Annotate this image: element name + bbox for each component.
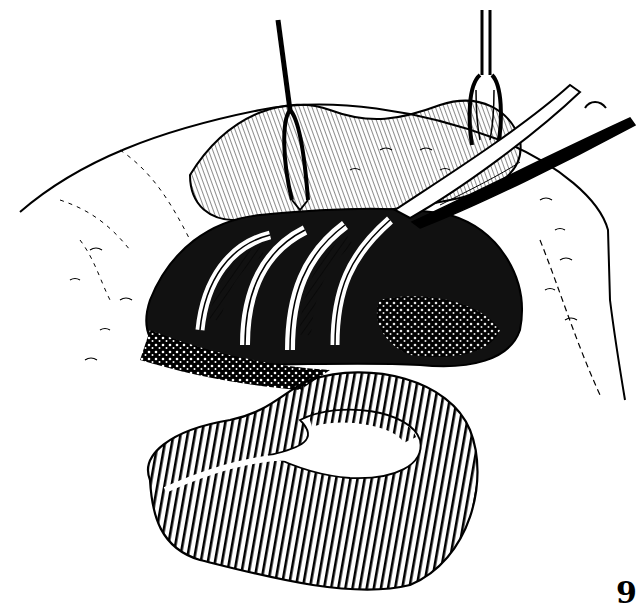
coiled-tissue-loop: [148, 372, 477, 589]
figure-number: 9: [616, 578, 637, 607]
